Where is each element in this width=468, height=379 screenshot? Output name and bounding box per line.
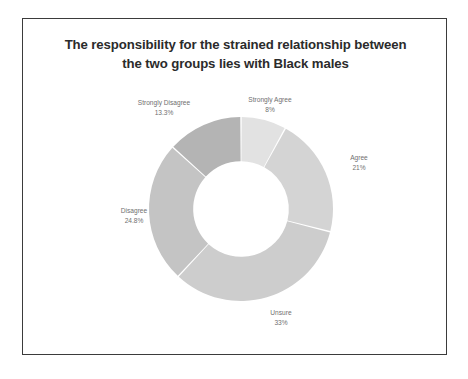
donut-chart-svg	[23, 19, 448, 356]
slice-label-unsure-name: Unsure	[250, 308, 312, 318]
slice-label-agree: Agree 21%	[328, 153, 390, 172]
slice-label-strongly-agree: Strongly Agree 8%	[225, 95, 315, 114]
slice-label-agree-name: Agree	[328, 153, 390, 163]
slice-label-strongly-disagree: Strongly Disagree 13.3%	[119, 98, 209, 117]
slice-label-strongly-agree-name: Strongly Agree	[225, 95, 315, 105]
donut-slice[interactable]	[179, 221, 330, 301]
slice-label-unsure: Unsure 33%	[250, 308, 312, 327]
slice-label-strongly-disagree-value: 13.3%	[119, 108, 209, 118]
slice-label-disagree: Disagree 24.8%	[103, 206, 165, 225]
donut-chart: Strongly Agree 8% Agree 21% Unsure 33% D…	[23, 19, 448, 356]
slice-label-strongly-agree-value: 8%	[225, 105, 315, 115]
slice-label-agree-value: 21%	[328, 163, 390, 173]
slice-label-disagree-value: 24.8%	[103, 216, 165, 226]
slice-label-disagree-name: Disagree	[103, 206, 165, 216]
slice-label-strongly-disagree-name: Strongly Disagree	[119, 98, 209, 108]
donut-slices	[149, 117, 333, 301]
chart-card: The responsibility for the strained rela…	[22, 18, 447, 355]
slice-label-unsure-value: 33%	[250, 318, 312, 328]
